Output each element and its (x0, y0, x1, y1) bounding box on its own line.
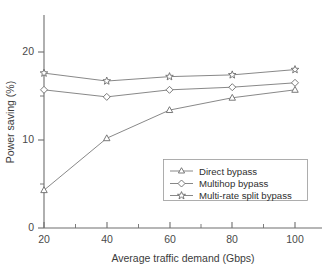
data-point (41, 187, 47, 193)
series-multihop-bypass (41, 79, 299, 100)
x-axis-title: Average traffic demand (Gbps) (111, 252, 254, 264)
data-point (291, 66, 299, 73)
legend-label-direct-bypass: Direct bypass (199, 166, 257, 177)
chart-legend: Direct bypass Multihop bypass Multi-rate… (164, 160, 308, 202)
x-axis-tick-labels: 20 40 60 80 100 (38, 233, 304, 245)
data-point (166, 86, 173, 93)
data-point (104, 135, 110, 141)
series-multi-rate-split-bypass (40, 66, 299, 85)
data-point (103, 77, 111, 84)
data-point (292, 86, 298, 92)
y-axis-tick-labels: 0 10 20 (22, 45, 34, 233)
data-point (228, 71, 236, 78)
y-tick-label-0: 0 (28, 221, 34, 233)
data-point (229, 84, 236, 91)
power-saving-line-chart: 0 10 20 20 40 60 80 100 Average traffic … (0, 0, 336, 269)
y-tick-label-10: 10 (22, 133, 34, 145)
y-axis-ticks (38, 52, 44, 228)
data-point (40, 69, 48, 76)
x-axis-ticks (44, 222, 295, 228)
legend-label-multi-rate-split-bypass: Multi-rate split bypass (199, 190, 292, 201)
data-point (103, 93, 110, 100)
data-point (292, 79, 299, 86)
x-tick-label-60: 60 (164, 233, 176, 245)
x-tick-label-100: 100 (286, 233, 304, 245)
data-point (41, 86, 48, 93)
data-point (166, 73, 174, 80)
y-tick-label-20: 20 (22, 45, 34, 57)
x-tick-label-40: 40 (101, 233, 113, 245)
legend-label-multihop-bypass: Multihop bypass (199, 178, 269, 189)
x-tick-label-20: 20 (38, 233, 50, 245)
x-tick-label-80: 80 (226, 233, 238, 245)
chart-figure: 0 10 20 20 40 60 80 100 Average traffic … (0, 0, 336, 269)
y-axis-title: Power saving (%) (4, 81, 16, 163)
